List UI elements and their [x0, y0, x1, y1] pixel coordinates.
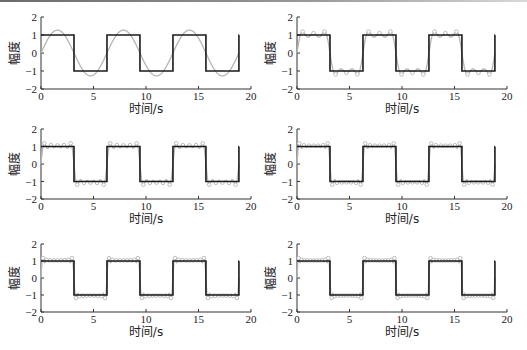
y-tick-label: 2 [288, 11, 294, 23]
y-tick-label: −1 [281, 65, 293, 77]
x-axis-label: 时间/s [129, 102, 163, 116]
x-axis-label: 时间/s [129, 325, 163, 339]
y-axis-label: 幅度 [263, 41, 278, 65]
x-tick-label: 20 [246, 200, 258, 212]
x-tick-label: 10 [141, 90, 153, 102]
extremum-marker [70, 256, 74, 260]
extremum-marker [491, 296, 495, 300]
x-tick-label: 5 [347, 313, 353, 325]
extremum-marker [462, 183, 466, 187]
extremum-marker [330, 183, 334, 187]
x-tick-label: 0 [294, 313, 300, 325]
square-wave-line [297, 147, 495, 182]
square-wave-line [41, 147, 239, 182]
extremum-marker [327, 256, 331, 260]
y-tick-label: 2 [32, 11, 38, 23]
subplot-5: −2−101205101520时间/s幅度 [7, 238, 257, 339]
extremum-marker [206, 296, 210, 300]
extremum-marker [367, 30, 371, 34]
x-tick-label: 0 [38, 313, 44, 325]
extremum-marker [234, 183, 238, 187]
extremum-marker [433, 30, 437, 34]
extremum-marker [141, 183, 145, 187]
extremum-marker [201, 142, 205, 146]
extremum-marker [235, 296, 239, 300]
x-tick-label: 15 [449, 313, 461, 325]
extremum-marker [202, 256, 206, 260]
x-tick-label: 0 [38, 90, 44, 102]
y-tick-label: −1 [281, 289, 293, 301]
extremum-marker [392, 142, 396, 146]
y-tick-label: 2 [32, 238, 38, 250]
x-axis-label: 时间/s [385, 102, 419, 116]
extremum-marker [429, 142, 433, 146]
y-tick-label: 2 [32, 123, 38, 135]
y-axis-label: 幅度 [7, 41, 22, 65]
extremum-marker [41, 256, 45, 260]
x-tick-label: 15 [449, 200, 461, 212]
y-tick-label: −1 [25, 289, 37, 301]
x-tick-label: 15 [193, 200, 205, 212]
y-tick-label: −2 [281, 306, 293, 318]
y-tick-label: −2 [25, 193, 37, 205]
y-tick-label: 0 [288, 158, 294, 170]
extremum-marker [455, 30, 459, 34]
extremum-marker [389, 30, 393, 34]
subplot-1: −2−101205101520时间/s幅度 [7, 11, 257, 116]
figure-canvas: −2−101205101520时间/s幅度−2−101205101520时间/s… [0, 0, 527, 350]
y-tick-label: 0 [288, 272, 294, 284]
y-tick-label: 1 [288, 255, 294, 267]
extremum-marker [359, 183, 363, 187]
extremum-marker [75, 183, 79, 187]
extremum-marker [422, 73, 426, 77]
y-tick-label: 1 [32, 141, 38, 153]
extremum-marker [174, 142, 178, 146]
x-tick-label: 20 [502, 90, 514, 102]
y-tick-label: 0 [32, 272, 38, 284]
y-tick-label: 1 [32, 29, 38, 41]
x-tick-label: 5 [91, 200, 97, 212]
y-tick-label: 0 [288, 47, 294, 59]
subplot-3: −2−101205101520时间/s幅度 [7, 123, 257, 226]
x-axis-label: 时间/s [385, 212, 419, 226]
extremum-marker [393, 256, 397, 260]
y-tick-label: 1 [32, 255, 38, 267]
extremum-marker [102, 183, 106, 187]
extremum-marker [458, 142, 462, 146]
x-axis-label: 时间/s [129, 212, 163, 226]
extremum-marker [363, 142, 367, 146]
extremum-marker [298, 142, 302, 146]
x-tick-label: 20 [246, 313, 258, 325]
extremum-marker [425, 183, 429, 187]
extremum-marker [360, 296, 364, 300]
x-tick-label: 20 [502, 200, 514, 212]
x-tick-label: 5 [91, 90, 97, 102]
extremum-marker [69, 142, 73, 146]
y-tick-label: −1 [281, 176, 293, 188]
extremum-marker [140, 296, 144, 300]
x-tick-label: 5 [347, 90, 353, 102]
x-axis-label: 时间/s [385, 325, 419, 339]
x-tick-label: 10 [141, 200, 153, 212]
y-axis-label: 幅度 [7, 152, 22, 176]
extremum-marker [326, 142, 330, 146]
subplot-6: −2−101205101520时间/s幅度 [263, 238, 513, 339]
extremum-marker [301, 30, 305, 34]
extremum-marker [103, 296, 107, 300]
extremum-marker [396, 183, 400, 187]
y-tick-label: −2 [25, 83, 37, 95]
y-tick-label: −1 [25, 65, 37, 77]
extremum-marker [135, 142, 139, 146]
extremum-marker [207, 183, 211, 187]
x-tick-label: 10 [397, 90, 409, 102]
extremum-marker [334, 73, 338, 77]
y-tick-label: 1 [288, 141, 294, 153]
x-tick-label: 10 [397, 200, 409, 212]
y-tick-label: 2 [288, 123, 294, 135]
y-tick-label: −2 [281, 83, 293, 95]
extremum-marker [107, 256, 111, 260]
square-wave-line [297, 261, 495, 295]
x-tick-label: 20 [502, 313, 514, 325]
y-tick-label: 0 [32, 158, 38, 170]
y-tick-label: −2 [281, 193, 293, 205]
